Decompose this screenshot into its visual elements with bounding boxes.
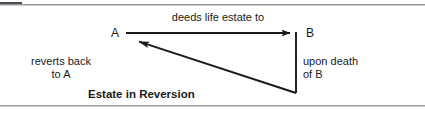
label-deeds-life-estate-to: deeds life estate to [153, 11, 283, 24]
label-upon-death-of-b: upon death of B [303, 55, 387, 81]
diagram-title-estate-in-reversion: Estate in Reversion [88, 88, 218, 101]
node-label-a: A [108, 27, 122, 40]
figure-canvas: deeds life estate to A B reverts back to… [0, 0, 425, 114]
reverts-to-a-arrow [139, 42, 296, 93]
node-label-b: B [303, 27, 317, 40]
label-reverts-back-to-a: reverts back to A [18, 55, 104, 81]
